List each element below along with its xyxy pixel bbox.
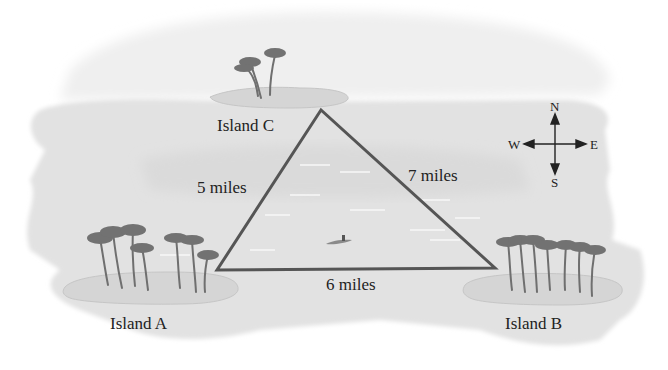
island-a-sand <box>63 272 238 304</box>
island-b-label: Island B <box>505 315 562 332</box>
island-a-label: Island A <box>110 315 167 332</box>
edge-cb-label: 7 miles <box>408 167 458 184</box>
island-c-label: Island C <box>217 117 274 134</box>
compass-north-label: N <box>550 100 559 113</box>
island-b-sand <box>463 273 622 305</box>
compass-south-label: S <box>551 176 558 189</box>
map-background <box>0 0 668 370</box>
edge-ab-label: 6 miles <box>326 276 376 293</box>
water <box>27 100 644 346</box>
sky-haze <box>60 12 610 100</box>
edge-ca-label: 5 miles <box>197 179 247 196</box>
island-map-diagram: Island C Island A Island B 5 miles 7 mil… <box>0 0 668 370</box>
compass-east-label: E <box>590 138 598 151</box>
compass-west-label: W <box>508 138 520 151</box>
